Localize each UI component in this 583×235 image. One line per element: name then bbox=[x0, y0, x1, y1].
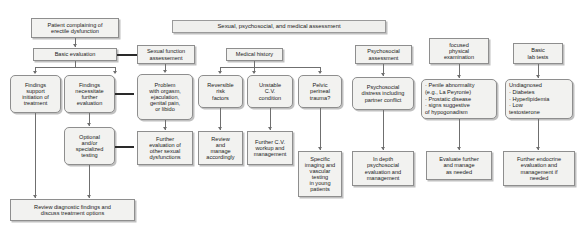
node-optional-testing: Optional and/or specialized testing bbox=[64, 127, 115, 165]
node-findings-necessitate: Findings necessitate further evaluation bbox=[64, 75, 115, 113]
arrowhead-review-from-support bbox=[33, 195, 37, 198]
arrowhead-review-manage bbox=[218, 127, 222, 130]
arrowhead-findings-necessitate bbox=[113, 71, 117, 74]
node-pelvic-perineal-trauma: Pelvic perineal trauma? bbox=[298, 75, 342, 108]
node-label: Reversible risk factors bbox=[201, 82, 240, 100]
node-label: Basic evaluation bbox=[36, 51, 114, 57]
node-label: Unstable C.V. condition bbox=[250, 82, 290, 100]
connector-basic-to-sexual-function bbox=[117, 54, 137, 56]
arrowhead-findings-support bbox=[33, 71, 37, 74]
connector-undiagnosed-to-endocrine bbox=[538, 119, 539, 150]
arrowhead-evaluate-further bbox=[457, 147, 461, 150]
node-psychosocial-distress: Psychosocial distress including partner … bbox=[352, 77, 414, 110]
connector-findings-to-evaluate bbox=[459, 119, 460, 150]
node-label: In depth psychosocial evaluation and man… bbox=[355, 156, 411, 181]
node-label: Sexual function assessement bbox=[140, 48, 192, 60]
node-unstable-cv-condition: Unstable C.V. condition bbox=[247, 75, 293, 108]
node-label: Further endocrine evaluation and managem… bbox=[506, 156, 572, 181]
node-label: Basic lab tests bbox=[516, 47, 560, 59]
arrowhead-specific-imaging bbox=[318, 147, 322, 150]
node-review-diagnostic-findings: Review diagnostic findings and discuss t… bbox=[10, 199, 135, 221]
connector-medical-history-bracket bbox=[220, 67, 320, 68]
node-problem-orgasm: Problem with orgasm, ejaculation, genita… bbox=[137, 74, 193, 120]
connector-pelvic-to-imaging bbox=[320, 108, 321, 150]
arrowhead-cv-workup bbox=[268, 127, 272, 130]
arrowhead-psychosocial-distress bbox=[381, 73, 385, 76]
node-further-evaluation-sexual: Further evaluation of other sexual dysfu… bbox=[137, 131, 193, 165]
connector-optional-to-further-eval bbox=[115, 146, 134, 148]
arrowhead-pelvic-trauma bbox=[318, 71, 322, 74]
connector-optional-to-review bbox=[89, 165, 90, 198]
arrowhead-review-from-optional bbox=[87, 195, 91, 198]
node-basic-evaluation: Basic evaluation bbox=[33, 48, 117, 61]
node-label: Psychosocial distress including partner … bbox=[355, 84, 411, 102]
arrowhead-reversible-risk bbox=[218, 71, 222, 74]
connector-necessitate-to-problem bbox=[115, 93, 134, 95]
node-sexual-function-assessment: Sexual function assessement bbox=[137, 45, 195, 64]
arrowhead-penile-abnormality bbox=[457, 75, 461, 78]
arrowhead-problem-orgasm bbox=[163, 70, 167, 73]
node-label: Review diagnostic findings and discuss t… bbox=[13, 204, 132, 216]
node-basic-lab-tests: Basic lab tests bbox=[513, 43, 563, 64]
arrowhead-undiagnosed bbox=[536, 75, 540, 78]
node-label: Patient complaining of erectile dysfunct… bbox=[34, 22, 116, 34]
arrowhead-further-eval-sexual bbox=[163, 127, 167, 130]
node-label: Findings support initiation of treatment bbox=[13, 82, 58, 107]
node-psychosocial-assessment: Psychosocial assessment bbox=[355, 45, 412, 64]
arrowhead-basic-evaluation bbox=[73, 44, 77, 47]
node-findings-support: Findings support initiation of treatment bbox=[10, 75, 61, 113]
node-further-cv-workup: Further C.V. workup and management bbox=[247, 131, 293, 165]
node-in-depth-psychosocial: In depth psychosocial evaluation and man… bbox=[352, 151, 414, 186]
connector-distress-to-indepth bbox=[383, 110, 384, 150]
connector-findings-bracket bbox=[35, 67, 115, 68]
node-label: focused physical examination bbox=[432, 42, 486, 60]
connector-support-to-review bbox=[35, 113, 36, 198]
node-label: Optional and/or specialized testing bbox=[67, 134, 112, 159]
node-focused-physical-examination: focused physical examination bbox=[429, 38, 489, 64]
node-specific-imaging-vascular: Specific imaging and vascular testing in… bbox=[298, 151, 342, 197]
node-label: Pelvic perineal trauma? bbox=[301, 82, 339, 100]
node-assessment-band: Sexual, psychosocial, and medical assess… bbox=[172, 20, 386, 33]
node-reversible-risk-factors: Reversible risk factors bbox=[198, 75, 243, 108]
node-label: Further C.V. workup and management bbox=[250, 139, 290, 157]
node-label: Problem with orgasm, ejaculation, genita… bbox=[140, 82, 190, 113]
node-physical-exam-findings: · Penile abnormality (e.g., La Peyronie)… bbox=[421, 79, 497, 119]
node-label: Medical history bbox=[229, 51, 280, 57]
arrowhead-further-endocrine bbox=[536, 147, 540, 150]
arrowhead-in-depth-psychosocial bbox=[381, 147, 385, 150]
node-label: Evaluate further and manage as needed bbox=[429, 156, 489, 174]
arrowhead-optional-testing bbox=[87, 123, 91, 126]
node-label: Specific imaging and vascular testing in… bbox=[301, 156, 339, 193]
flowchart-canvas: Sexual, psychosocial, and medical assess… bbox=[0, 0, 583, 235]
node-patient-complaining: Patient complaining of erectile dysfunct… bbox=[31, 18, 119, 38]
node-label: · Penile abnormality (e.g., La Peyronie)… bbox=[425, 82, 494, 116]
node-label: Psychosocial assessment bbox=[358, 48, 409, 60]
node-label: Findings necessitate further evaluation bbox=[67, 82, 112, 107]
node-undiagnosed-conditions: Undiagnosed · Diabetes · Hyperlipidemia … bbox=[505, 79, 573, 119]
node-label: Further evaluation of other sexual dysfu… bbox=[140, 136, 190, 161]
node-label: Review and manage accordingly bbox=[201, 136, 240, 161]
node-evaluate-further-manage: Evaluate further and manage as needed bbox=[426, 151, 492, 180]
node-further-endocrine-evaluation: Further endocrine evaluation and managem… bbox=[503, 151, 575, 186]
node-medical-history: Medical history bbox=[226, 48, 283, 61]
node-label: Undiagnosed · Diabetes · Hyperlipidemia … bbox=[509, 82, 570, 116]
node-review-and-manage: Review and manage accordingly bbox=[198, 131, 243, 165]
node-label: Sexual, psychosocial, and medical assess… bbox=[175, 23, 383, 29]
arrowhead-unstable-cv bbox=[252, 71, 256, 74]
